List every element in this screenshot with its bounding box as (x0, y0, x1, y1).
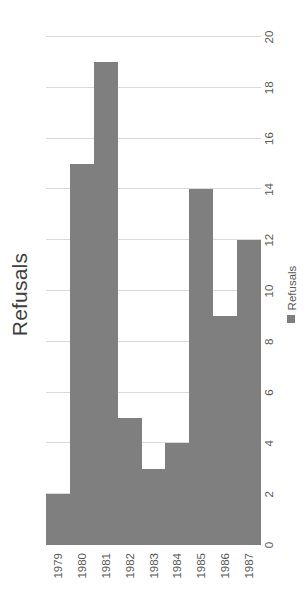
value-tick-label: 0 (263, 542, 275, 548)
value-tick-label: 8 (263, 339, 275, 345)
rotated-chart-wrapper: Refusals 1979198019811982198319841985198… (0, 0, 306, 589)
chart-title: Refusals (8, 0, 32, 589)
value-tick-label: 20 (263, 31, 275, 44)
category-tick-label: 1985 (195, 553, 207, 579)
category-tick-label: 1987 (243, 553, 255, 579)
value-tick-label: 12 (263, 234, 275, 247)
bar (94, 62, 118, 545)
bar-row (237, 37, 261, 545)
bar-row (70, 37, 94, 545)
bar (118, 418, 142, 545)
bar (165, 443, 189, 545)
bar (237, 240, 261, 545)
value-tick-label: 10 (263, 285, 275, 298)
plot-area (46, 37, 261, 545)
chart-figure: Refusals 1979198019811982198319841985198… (0, 0, 306, 589)
category-tick-label: 1983 (148, 553, 160, 579)
chart-legend: Refusals (285, 0, 298, 589)
category-tick-label: 1979 (52, 553, 64, 579)
bar (213, 316, 237, 545)
bar-row (142, 37, 166, 545)
category-tick-label: 1980 (76, 553, 88, 579)
value-tick-label: 16 (263, 132, 275, 145)
value-tick-label: 6 (263, 389, 275, 395)
bar-row (165, 37, 189, 545)
category-tick-label: 1982 (124, 553, 136, 579)
category-tick-label: 1984 (171, 553, 183, 579)
legend-label: Refusals (286, 266, 298, 311)
bar-row (46, 37, 70, 545)
category-axis: 197919801981198219831984198519861987 (46, 547, 261, 589)
bar-row (118, 37, 142, 545)
value-tick-label: 14 (263, 183, 275, 196)
value-tick-label: 4 (263, 440, 275, 446)
bar-row (94, 37, 118, 545)
bar (46, 494, 70, 545)
bar (142, 469, 166, 545)
value-tick-label: 18 (263, 81, 275, 94)
bar-series (46, 37, 261, 545)
legend-swatch-icon (287, 315, 295, 323)
value-axis: 02468101214161820 (263, 37, 283, 545)
value-tick-label: 2 (263, 491, 275, 497)
bar-row (213, 37, 237, 545)
bar-row (189, 37, 213, 545)
bar (189, 189, 213, 545)
bar (70, 164, 94, 545)
category-tick-label: 1981 (100, 553, 112, 579)
category-tick-label: 1986 (219, 553, 231, 579)
